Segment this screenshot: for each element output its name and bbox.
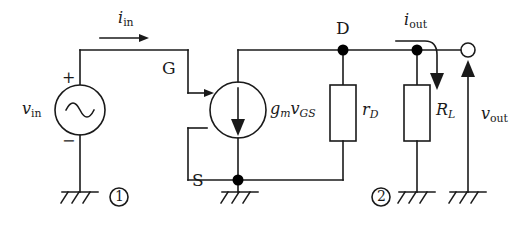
gate-arrow — [188, 89, 214, 97]
ac-voltage-source — [55, 85, 105, 135]
resistor-rl-body — [404, 85, 430, 141]
ground-symbol-source — [221, 192, 258, 203]
node-source — [233, 175, 244, 186]
voltage-out-arrow — [461, 60, 475, 192]
voltage-in-label: vin — [22, 99, 42, 120]
plus-terminal-label: + — [62, 68, 75, 87]
dependent-source-label: gmvGS — [270, 99, 316, 120]
gate-label: G — [162, 58, 176, 78]
ground-symbol-output — [449, 192, 486, 203]
source-label: S — [192, 170, 204, 190]
drain-label: D — [336, 18, 350, 38]
node-marker-1-label: 1 — [115, 188, 124, 204]
node-drain — [338, 45, 349, 56]
circuit-diagram: iin iout vin vout G D S gmvGS rD RL + − … — [0, 0, 529, 230]
ground-symbol-1 — [61, 192, 98, 203]
resistor-rl-label: RL — [436, 100, 455, 121]
node-output — [412, 45, 423, 56]
ground-symbol-2 — [398, 192, 435, 203]
voltage-out-label: vout — [481, 104, 508, 125]
dependent-current-source — [210, 82, 266, 138]
current-in-arrow — [100, 34, 149, 42]
current-out-label: iout — [404, 10, 427, 31]
output-terminal-circle — [461, 43, 475, 57]
node-marker-2-label: 2 — [377, 188, 386, 204]
minus-terminal-label: − — [62, 131, 75, 150]
resistor-rd-body — [330, 85, 356, 141]
resistor-rd-label: rD — [362, 100, 378, 121]
current-in-label: iin — [118, 8, 134, 29]
